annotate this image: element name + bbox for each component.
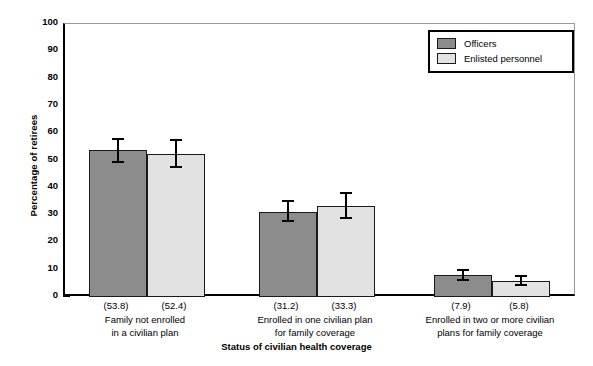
x-axis-group-caption: Enrolled in two or more civilianplans fo… [390,314,590,339]
error-bar-cap-bottom [340,217,352,219]
legend-item: Enlisted personnel [437,51,566,66]
error-bar-stem [175,139,177,168]
error-bar-cap-top [170,139,182,141]
y-axis-tick-label: 0 [20,289,58,300]
error-bar [282,200,294,222]
legend-label: Enlisted personnel [464,53,542,64]
bar-value-label: (33.3) [314,300,374,311]
error-bar [515,275,527,286]
bar-value-label: (52.4) [144,300,204,311]
y-axis-tick-label: 90 [20,43,58,54]
y-axis-tick-label: 60 [20,125,58,136]
error-bar-stem [345,192,347,219]
bar-value-label: (5.8) [489,300,549,311]
error-bar-cap-bottom [282,220,294,222]
legend-swatch-officers [437,38,456,49]
caption-line: Enrolled in one civilian plan [215,314,415,327]
bar-officers [89,150,147,297]
error-bar-cap-top [457,269,469,271]
y-axis-tick-label: 40 [20,180,58,191]
error-bar-cap-bottom [457,279,469,281]
error-bar-cap-bottom [170,166,182,168]
y-axis-tick-label: 20 [20,234,58,245]
caption-line: Enrolled in two or more civilian [390,314,590,327]
bar-value-label: (53.8) [86,300,146,311]
caption-line: plans for family coverage [390,327,590,340]
y-axis-tick-label: 50 [20,153,58,164]
error-bar-cap-bottom [112,161,124,163]
bar-chart: Percentage of retirees 10090807060504030… [0,0,593,366]
error-bar [170,139,182,168]
bar-enlisted [317,206,375,297]
error-bar-stem [117,138,119,164]
error-bar-stem [287,200,289,222]
bar-officers [259,212,317,297]
error-bar-cap-top [515,275,527,277]
error-bar [457,269,469,282]
error-bar [340,192,352,219]
legend-item: Officers [437,36,566,51]
x-axis-title: Status of civilian health coverage [0,341,593,352]
bar-value-label: (7.9) [431,300,491,311]
error-bar-cap-top [282,200,294,202]
error-bar-cap-top [340,192,352,194]
bar-enlisted [147,154,205,297]
caption-line: for family coverage [215,327,415,340]
y-axis-tick-label: 80 [20,71,58,82]
bar-value-label: (31.2) [256,300,316,311]
legend-label: Officers [464,38,497,49]
error-bar-cap-bottom [515,284,527,286]
y-axis-tick-label: 10 [20,262,58,273]
error-bar [112,138,124,164]
legend: OfficersEnlisted personnel [428,30,574,73]
y-axis-tick-label: 100 [20,16,58,27]
error-bar-cap-top [112,138,124,140]
y-axis-tick-label: 70 [20,98,58,109]
y-axis-tick-label: 30 [20,207,58,218]
legend-swatch-enlisted [437,53,456,64]
x-axis-group-caption: Enrolled in one civilian planfor family … [215,314,415,339]
